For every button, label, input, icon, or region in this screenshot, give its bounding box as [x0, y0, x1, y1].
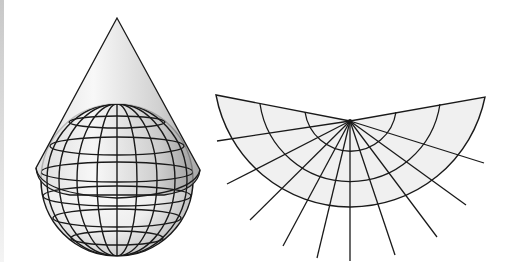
cone-globe-panel: [36, 18, 200, 256]
fan-apex: [348, 119, 352, 123]
cone: [36, 18, 200, 195]
conic-projection-diagram: [0, 0, 515, 262]
flattened-cone-panel: [216, 95, 485, 261]
